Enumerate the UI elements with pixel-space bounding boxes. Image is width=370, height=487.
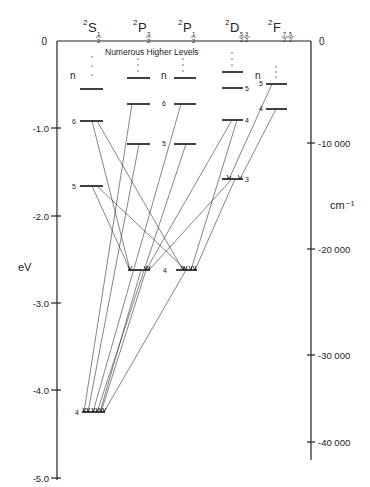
term-header-2P3/2: 2 P 3 2 — [133, 18, 151, 44]
svg-text:3: 3 — [147, 31, 151, 37]
tick-label-right-0: 0 — [319, 36, 325, 47]
term-header-2P1/2: 2 P 1 2 — [178, 18, 196, 44]
term-header-2D: 2 D 5 3 2 2 — [225, 18, 250, 43]
tick-label-right-40000: -40 000 — [318, 437, 350, 448]
tick-label-right-30000: -30 000 — [318, 350, 350, 361]
numerous-higher-levels-note: Numerous Higher Levels — [105, 47, 199, 57]
svg-text:S: S — [88, 20, 97, 35]
right-axis-label: cm⁻¹ — [330, 199, 355, 211]
tick-label-minus-1: -1.0 — [33, 123, 49, 134]
tick-label-0: 0 — [41, 36, 47, 47]
svg-text:n: n — [161, 70, 167, 81]
svg-text:3: 3 — [245, 176, 249, 183]
svg-text:6: 6 — [72, 118, 76, 125]
svg-text:2: 2 — [289, 37, 292, 43]
svg-text:4: 4 — [163, 267, 167, 274]
svg-text:2: 2 — [283, 37, 286, 43]
term-header-2S1/2: 2 S 1 2 — [83, 18, 101, 44]
svg-text:5: 5 — [245, 85, 249, 92]
left-axis — [51, 41, 311, 480]
tick-label-right-20000: -20 000 — [318, 244, 350, 255]
svg-text:D: D — [230, 20, 239, 35]
svg-text:6: 6 — [162, 100, 166, 107]
levels-D: 5 4 3 — [222, 72, 249, 183]
svg-text:P: P — [138, 20, 147, 35]
levels-F: n 5 4 — [255, 70, 287, 112]
svg-text:2: 2 — [240, 37, 243, 43]
term-header-2F: 2 F 7 5 2 2 — [268, 18, 294, 43]
levels-P3/2 — [127, 78, 150, 270]
svg-text:1: 1 — [97, 31, 101, 37]
tick-label-minus-4: -4.0 — [33, 385, 49, 396]
svg-text:4: 4 — [245, 117, 249, 124]
levels-S: n 6 5 4 — [70, 70, 105, 416]
tick-label-right-10000: -10 000 — [318, 138, 350, 149]
energy-level-diagram: 0 -1.0 -2.0 -3.0 -4.0 -5.0 eV 0 -10 000 … — [0, 0, 370, 487]
svg-text:P: P — [183, 20, 192, 35]
right-axis — [307, 41, 315, 460]
arrowheads — [83, 175, 242, 412]
svg-text:5: 5 — [162, 140, 166, 147]
levels-P1/2: n 6 5 4 — [161, 70, 197, 274]
svg-text:1: 1 — [192, 31, 196, 37]
svg-text:F: F — [273, 20, 281, 35]
left-axis-label: eV — [18, 261, 32, 273]
tick-label-minus-3: -3.0 — [33, 298, 49, 309]
svg-text:4: 4 — [75, 409, 79, 416]
tick-label-minus-2: -2.0 — [33, 211, 49, 222]
transition-lines — [84, 84, 276, 412]
svg-text:n: n — [70, 70, 76, 81]
tick-label-minus-5: -5.0 — [33, 473, 49, 484]
svg-text:5: 5 — [259, 80, 263, 87]
svg-text:5: 5 — [72, 183, 76, 190]
svg-text:2: 2 — [245, 37, 248, 43]
